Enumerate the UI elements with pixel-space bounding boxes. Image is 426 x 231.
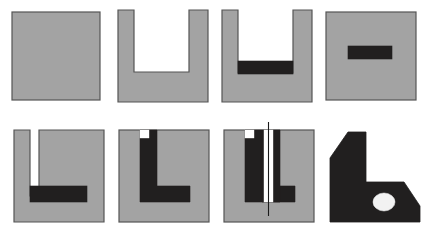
panel-narrow-slot-with-bar xyxy=(0,116,115,231)
block-body xyxy=(12,12,100,100)
panel-5-drawing xyxy=(0,116,115,231)
machining-sequence-figure xyxy=(0,0,426,231)
block-body xyxy=(119,130,209,222)
panel-3-drawing xyxy=(208,0,328,115)
internal-black-bar xyxy=(348,46,392,59)
top-notch-void xyxy=(245,130,254,138)
panel-6-drawing xyxy=(105,116,223,231)
panel-slot-with-black-floor xyxy=(208,0,328,115)
panel-l-shaped-black-cut xyxy=(105,116,223,231)
bracket-body xyxy=(330,132,420,222)
panel-2-drawing xyxy=(104,0,224,115)
panel-finished-bracket xyxy=(316,116,426,231)
panel-7-drawing xyxy=(210,116,328,231)
panel-8-drawing xyxy=(316,116,426,231)
round-hole xyxy=(373,193,395,211)
panel-hidden-internal-bar xyxy=(314,0,426,115)
panel-1-drawing xyxy=(0,0,115,115)
u-channel-body xyxy=(118,10,208,102)
black-floor-bar xyxy=(238,61,293,74)
top-notch-void xyxy=(140,130,149,138)
panel-sectioned-with-centerline xyxy=(210,116,328,231)
black-horizontal-bar xyxy=(30,186,87,202)
panel-solid-block xyxy=(0,0,115,115)
panel-open-slot-block xyxy=(104,0,224,115)
panel-4-drawing xyxy=(314,0,426,115)
block-with-narrow-slot xyxy=(14,130,104,222)
u-channel-body xyxy=(222,10,312,102)
